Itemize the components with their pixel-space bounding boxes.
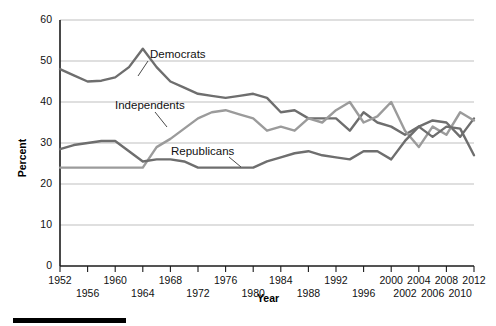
series-label-democrats: Democrats <box>150 48 206 60</box>
series-line-republicans <box>60 127 474 168</box>
y-tick-label: 60 <box>40 13 52 25</box>
gridlines <box>60 20 474 225</box>
y-tick-label: 10 <box>40 218 52 230</box>
y-tick-label: 20 <box>40 177 52 189</box>
x-tick-label: 2008 <box>435 274 459 286</box>
y-tick-labels: 0102030405060 <box>40 13 52 271</box>
leader-line-independents <box>155 112 167 127</box>
x-tick-label: 1956 <box>76 287 100 299</box>
leader-line-democrats <box>138 61 148 76</box>
leader-line-republicans <box>229 157 241 167</box>
x-tick-label: 1984 <box>269 274 293 286</box>
x-tick-label: 2006 <box>421 287 445 299</box>
x-tick-label: 1992 <box>324 274 348 286</box>
x-tick-label: 1960 <box>104 274 128 286</box>
y-axis-title: Percent <box>16 138 28 177</box>
x-tick-label: 1968 <box>159 274 183 286</box>
series-label-republicans: Republicans <box>171 145 235 157</box>
x-tick-label: 2004 <box>407 274 431 286</box>
y-tick-label: 30 <box>40 136 52 148</box>
bottom-rule <box>13 318 126 323</box>
chart-container: 0102030405060 19521960196819761984199220… <box>0 0 496 326</box>
x-tick-label: 1972 <box>186 287 210 299</box>
x-tick-label: 2002 <box>393 287 417 299</box>
x-tick-label: 2000 <box>380 274 404 286</box>
y-tick-label: 0 <box>46 259 52 271</box>
x-tick-label: 1952 <box>48 274 72 286</box>
series-annotations: DemocratsIndependentsRepublicans <box>115 48 241 167</box>
x-tick-label: 2012 <box>462 274 486 286</box>
x-tick-label: 1988 <box>297 287 321 299</box>
y-tick-label: 50 <box>40 54 52 66</box>
y-tick-label: 40 <box>40 95 52 107</box>
x-tick-label: 1996 <box>352 287 376 299</box>
x-tick-label: 2010 <box>449 287 473 299</box>
series-line-democrats <box>60 49 474 137</box>
line-chart: 0102030405060 19521960196819761984199220… <box>0 0 496 326</box>
series-label-independents: Independents <box>115 99 185 111</box>
x-tick-label: 1976 <box>214 274 238 286</box>
x-tick-marks <box>60 266 474 272</box>
x-axis-title: Year <box>257 292 279 304</box>
x-tick-label: 1964 <box>131 287 155 299</box>
